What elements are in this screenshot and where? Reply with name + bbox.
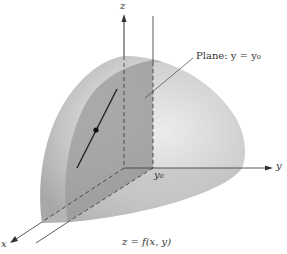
surface-diagram: z y x Plane: y = y₀ y₀ z = f(x, y) (0, 0, 287, 254)
y0-label: y₀ (154, 169, 164, 180)
y-axis-label: y (276, 160, 282, 171)
plane-label: Plane: y = y₀ (196, 50, 261, 61)
caption: z = f(x, y) (122, 236, 171, 247)
diagram-svg (0, 0, 287, 254)
z-axis-label: z (120, 0, 125, 11)
x-axis-label: x (1, 238, 7, 249)
tangent-point (93, 127, 98, 132)
